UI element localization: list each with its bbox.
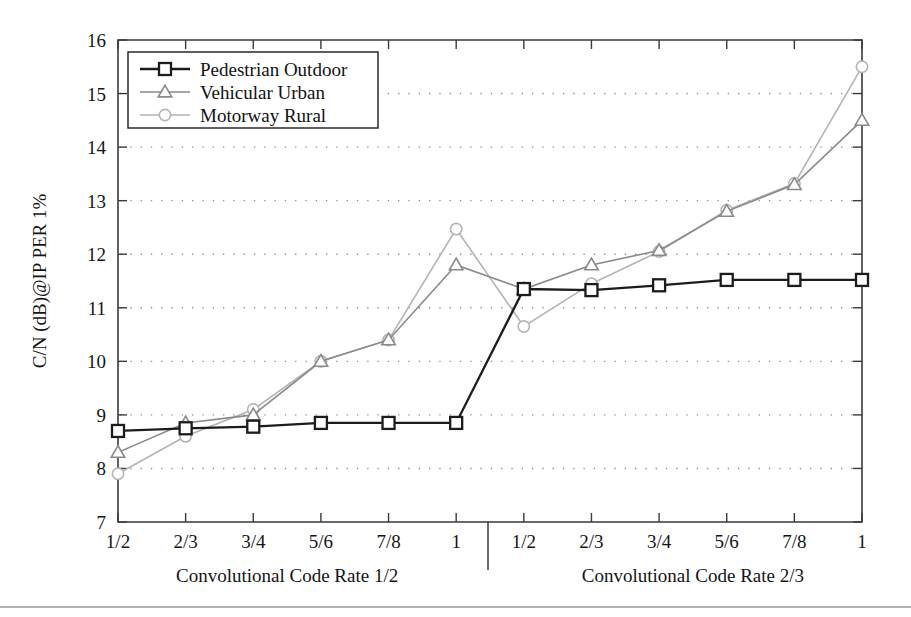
y-tick-label: 14 (87, 137, 107, 158)
y-axis-title-text: C/N (dB)@IP PER 1% (29, 194, 51, 369)
series-pedestrian-outdoor (112, 274, 868, 437)
series-vehicular-urban (111, 114, 869, 458)
legend-label: Vehicular Urban (200, 82, 326, 103)
marker-square (653, 279, 665, 291)
x-tick-label: 1/2 (512, 531, 536, 552)
line-chart: 78910111213141516 1/22/33/45/67/811/22/3… (0, 0, 911, 617)
marker-square (315, 417, 327, 429)
y-tick-label: 12 (87, 244, 106, 265)
y-tick-label: 15 (87, 84, 106, 105)
group-label-1: Convolutional Code Rate 1/2 (176, 565, 398, 586)
x-tick-label: 5/6 (715, 531, 739, 552)
chart-figure: 78910111213141516 1/22/33/45/67/811/22/3… (0, 0, 911, 617)
x-tick-label: 7/8 (782, 531, 806, 552)
marker-square (159, 63, 171, 75)
marker-square (788, 274, 800, 286)
x-tick-label: 1/2 (106, 531, 130, 552)
marker-square (450, 417, 462, 429)
marker-square (383, 417, 395, 429)
legend-label: Pedestrian Outdoor (200, 59, 348, 80)
y-tick-label: 11 (88, 298, 106, 319)
series-polyline (118, 280, 862, 431)
x-axis-group-labels: Convolutional Code Rate 1/2Convolutional… (176, 565, 804, 586)
marker-square (856, 274, 868, 286)
y-tick-label: 16 (87, 30, 106, 51)
marker-triangle (855, 114, 869, 126)
marker-square (180, 422, 192, 434)
x-tick-label: 1 (857, 531, 867, 552)
x-tick-label: 1 (451, 531, 461, 552)
marker-circle (159, 109, 170, 120)
marker-square (518, 283, 530, 295)
marker-square (247, 421, 259, 433)
y-tick-label: 13 (87, 191, 106, 212)
y-tick-label: 9 (97, 405, 107, 426)
y-axis-tick-labels: 78910111213141516 (87, 30, 107, 533)
y-tick-label: 7 (97, 512, 107, 533)
marker-square (112, 425, 124, 437)
x-tick-label: 3/4 (241, 531, 266, 552)
x-tick-label: 3/4 (647, 531, 672, 552)
x-tick-label: 2/3 (173, 531, 197, 552)
marker-circle (451, 223, 462, 234)
marker-circle (856, 61, 867, 72)
marker-circle (112, 468, 123, 479)
series-polyline (118, 120, 862, 452)
chart-legend: Pedestrian OutdoorVehicular UrbanMotorwa… (128, 52, 378, 128)
marker-triangle (449, 258, 463, 270)
x-tick-label: 2/3 (579, 531, 603, 552)
group-label-2: Convolutional Code Rate 2/3 (582, 565, 804, 586)
marker-square (721, 274, 733, 286)
y-tick-label: 8 (97, 458, 107, 479)
x-tick-label: 7/8 (376, 531, 400, 552)
x-axis-tick-labels: 1/22/33/45/67/811/22/33/45/67/81 (106, 531, 867, 552)
marker-triangle (111, 446, 125, 458)
legend-label: Motorway Rural (200, 105, 326, 126)
y-axis-title: C/N (dB)@IP PER 1% (29, 194, 51, 369)
marker-square (585, 284, 597, 296)
x-tick-label: 5/6 (309, 531, 333, 552)
marker-circle (518, 321, 529, 332)
y-tick-label: 10 (87, 351, 106, 372)
